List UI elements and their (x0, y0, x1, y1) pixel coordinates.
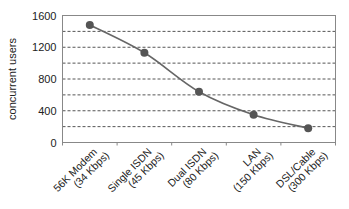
series-line (90, 25, 308, 128)
x-category-label: LAN(150 Kbps) (222, 141, 275, 194)
y-tick-label: 800 (38, 73, 56, 85)
x-category-label: Dual ISDN(80 Kbps) (165, 141, 221, 197)
y-tick-label: 1600 (32, 10, 56, 22)
data-point-marker (86, 21, 94, 29)
data-point-marker (140, 49, 148, 57)
x-category-label: 56K Modem(34 Kbps) (51, 141, 112, 202)
y-axis: 040080012001600 (32, 10, 56, 149)
data-point-marker (250, 111, 258, 119)
data-points (86, 21, 312, 132)
x-category-label: Single ISDN(45 Kbps) (105, 141, 166, 202)
y-axis-title: concurrent users (6, 38, 18, 120)
gridlines (63, 31, 336, 126)
line-chart: 040080012001600 56K Modem(34 Kbps)Single… (0, 0, 349, 209)
y-tick-label: 0 (50, 137, 56, 149)
data-point-marker (195, 88, 203, 96)
y-tick-label: 1200 (32, 41, 56, 53)
x-axis: 56K Modem(34 Kbps)Single ISDN(45 Kbps)Du… (51, 141, 336, 202)
data-point-marker (304, 124, 312, 132)
x-category-label: DSL/Cable(300 Kbps) (273, 141, 329, 197)
y-tick-label: 400 (38, 105, 56, 117)
